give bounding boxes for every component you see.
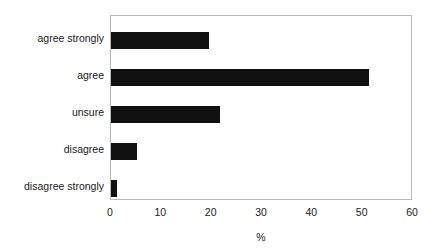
y-axis-category-labels: agree strongly agree unsure disagree dis… bbox=[0, 0, 104, 252]
y-axis-label-1: agree bbox=[0, 70, 104, 81]
x-tick-label: 40 bbox=[305, 206, 317, 218]
x-tick-label: 50 bbox=[356, 206, 368, 218]
x-axis-title: % bbox=[110, 231, 412, 243]
x-tick-label: 60 bbox=[406, 206, 418, 218]
x-tick-label: 20 bbox=[205, 206, 217, 218]
y-axis-label-2: unsure bbox=[0, 107, 104, 118]
y-axis-label-3: disagree bbox=[0, 144, 104, 155]
x-tick-label: 10 bbox=[154, 206, 166, 218]
x-tick-label: 30 bbox=[255, 206, 267, 218]
bar-chart-figure: agree strongly agree unsure disagree dis… bbox=[0, 0, 432, 252]
bar-unsure bbox=[111, 106, 220, 123]
bar-disagree bbox=[111, 143, 137, 160]
y-axis-label-4: disagree strongly bbox=[0, 181, 104, 192]
bar-agree bbox=[111, 69, 369, 86]
x-axis: 0 10 20 30 40 50 60 bbox=[110, 200, 412, 230]
plot-area bbox=[110, 15, 412, 200]
y-axis-label-0: agree strongly bbox=[0, 33, 104, 44]
x-tick-label: 0 bbox=[107, 206, 113, 218]
bar-agree-strongly bbox=[111, 32, 209, 49]
bar-disagree-strongly bbox=[111, 180, 117, 197]
